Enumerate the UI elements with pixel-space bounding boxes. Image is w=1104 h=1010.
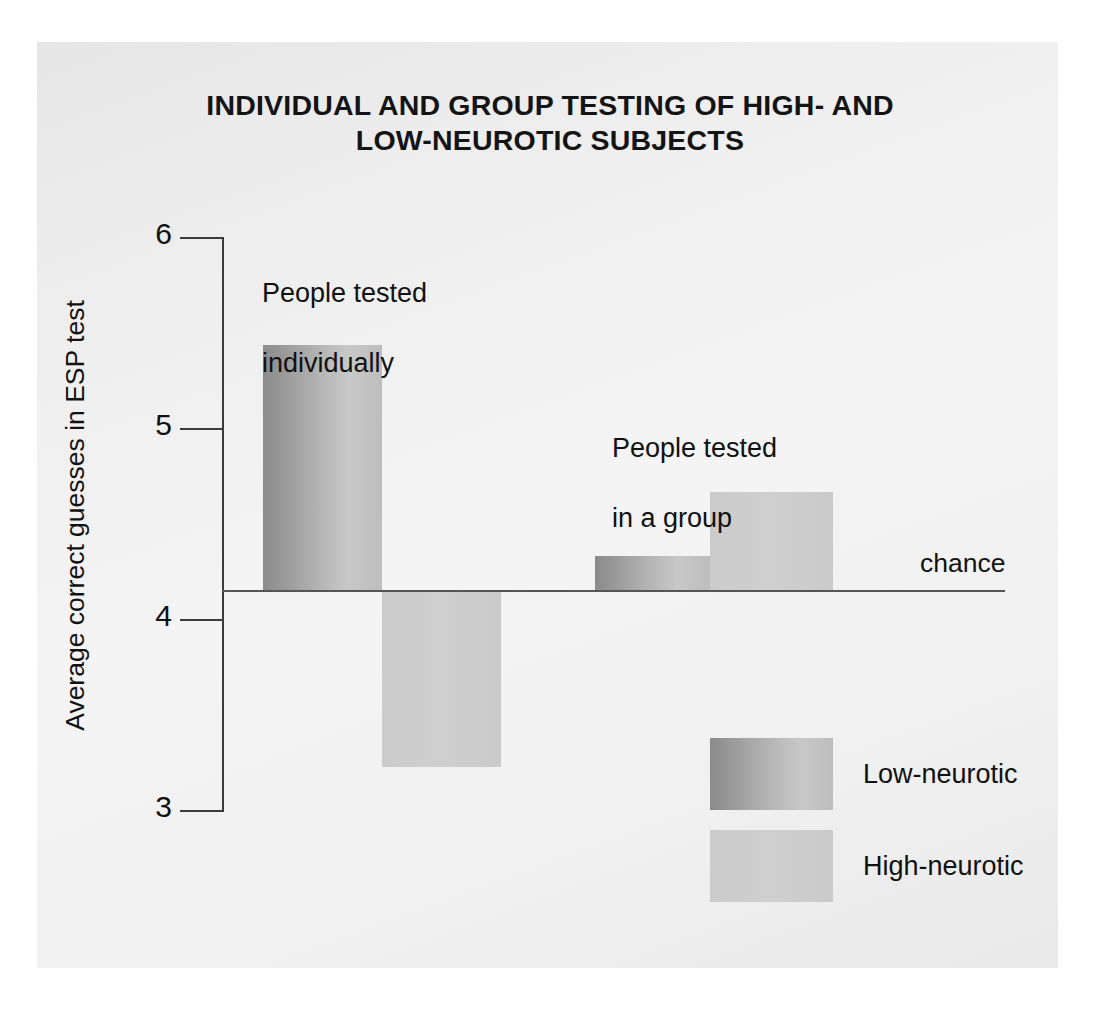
y-axis-tick-5 [180,428,224,430]
chance-baseline [222,590,1005,592]
y-axis-tick-label-4: 4 [132,601,172,631]
y-axis-title: Average correct guesses in ESP test [60,281,91,751]
y-axis-tick-6 [180,237,224,239]
annotation-group-line-2: in a group [612,501,777,536]
plot-area: 6 5 4 3 Average correct guesses in ESP t… [0,0,1104,1010]
figure-root: INDIVIDUAL AND GROUP TESTING OF HIGH- AN… [0,0,1104,1010]
annotation-group-line-1: People tested [612,431,777,466]
legend-swatch-low-neurotic [710,738,833,810]
y-axis-tick-3 [180,810,224,812]
legend-label-low-neurotic: Low-neurotic [863,759,1018,790]
annotation-individual-line-1: People tested [262,276,427,311]
bar-individual-high-neurotic [382,592,501,767]
chance-label: chance [920,548,1005,579]
legend-item-high-neurotic: High-neurotic [710,830,1024,902]
legend-label-high-neurotic: High-neurotic [863,851,1024,882]
y-axis-line [222,237,224,811]
y-axis-tick-4 [180,619,224,621]
y-axis-tick-label-5: 5 [132,410,172,440]
annotation-individual-line-2: individually [262,346,427,381]
annotation-group: People tested in a group [612,396,777,571]
annotation-individual: People tested individually [262,241,427,416]
y-axis-tick-label-6: 6 [132,219,172,249]
y-axis-tick-label-3: 3 [132,792,172,822]
legend-swatch-high-neurotic [710,830,833,902]
legend-item-low-neurotic: Low-neurotic [710,738,1018,810]
